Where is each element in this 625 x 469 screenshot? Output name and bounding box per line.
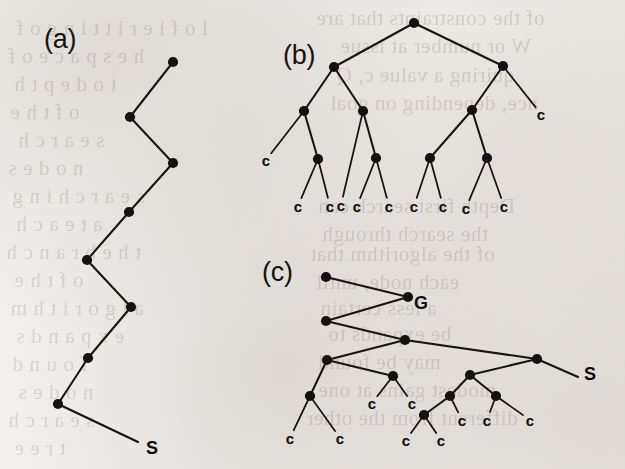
panel-label-c: (c) [262,259,293,286]
tree-edge-c [405,340,537,359]
cutoff-leaf-label: c [526,413,534,428]
graph-node-b-b6 [313,154,323,164]
tree-edge-c [327,360,393,376]
graph-node-a-a7 [53,399,63,409]
leaf-edge-c-0 [294,396,310,430]
leaf-edge-b-8 [430,158,441,198]
figure-container: of the constraints that areW or number a… [0,0,625,469]
graph-node-a-a4 [82,255,92,265]
search-tree-diagram-canvas [0,0,625,469]
graph-node-c-c3 [400,335,410,345]
graph-node-c-c1 [403,292,413,302]
tree-edge-c [310,360,327,396]
cutoff-leaf-label: c [337,198,345,213]
cutoff-leaf-label: c [437,433,445,448]
cutoff-leaf-label: c [410,199,418,214]
tree-edge-a [130,62,173,117]
tree-edge-b [430,110,472,158]
path-tail-edge-a [58,404,138,442]
cutoff-leaf-label: c [262,153,270,168]
goal-node-label-c: G [414,294,428,312]
cutoff-leaf-label: c [353,199,361,214]
start-node-label-a: S [146,439,158,457]
cutoff-leaf-label: c [286,431,294,446]
leaf-edge-c-1 [310,396,335,431]
leaf-edge-b-10 [487,158,501,198]
leaf-edge-b-2 [343,111,363,197]
graph-node-c-c8 [465,370,475,380]
tree-edge-b [334,23,414,67]
leaf-edge-b-3 [301,159,318,198]
graph-node-a-a6 [83,353,93,363]
nodes-layer [53,18,542,420]
tree-edge-a [87,260,131,307]
graph-node-b-b2 [498,61,508,71]
graph-node-a-a3 [124,207,134,217]
tree-edge-b [472,66,503,110]
tree-edge-c [327,340,405,360]
cutoff-leaf-label: c [402,433,410,448]
graph-node-b-b1 [329,62,339,72]
graph-node-a-a1 [125,112,135,122]
graph-node-c-c2 [321,316,331,326]
leaf-edge-b-5 [360,158,376,198]
cutoff-leaf-label: c [385,199,393,214]
edges-layer [58,23,578,442]
cutoff-leaf-label: c [537,107,545,122]
tree-edge-b [414,23,503,66]
graph-node-c-c5 [532,354,542,364]
leaf-edge-b-6 [376,158,387,198]
leaf-edge-b-1 [503,66,536,107]
leaf-edge-b-4 [318,159,328,198]
graph-node-c-c0 [321,272,331,282]
graph-node-b-b0 [409,18,419,28]
panel-label-b: (b) [283,42,315,69]
start-node-label-c: S [584,365,596,383]
graph-node-c-c4 [322,355,332,365]
tree-edge-b [472,110,487,158]
tree-edge-c [326,321,405,340]
leaf-edge-b-0 [271,111,304,153]
graph-node-a-a2 [168,158,178,168]
cutoff-leaf-label: c [326,199,334,214]
tree-edge-b [304,111,318,159]
graph-node-b-b9 [482,153,492,163]
tree-edge-c [470,359,537,375]
tree-edge-a [58,358,88,404]
cutoff-leaf-label: c [458,413,466,428]
graph-node-b-b8 [425,153,435,163]
path-tail-edge-c [537,359,578,377]
graph-node-c-c10 [491,391,501,401]
cutoff-leaf-label: c [336,431,344,446]
cutoff-leaf-label: c [483,413,491,428]
graph-node-c-c7 [388,371,398,381]
graph-node-c-c6 [305,391,315,401]
cutoff-leaf-label: c [462,201,470,216]
cutoff-leaf-label: c [439,199,447,214]
tree-edge-c [326,297,408,321]
tree-edge-b [334,67,363,111]
tree-edge-a [88,307,131,358]
graph-node-b-b3 [299,106,309,116]
cutoff-leaf-label: c [500,199,508,214]
tree-edge-a [87,212,129,260]
panel-label-a: (a) [44,26,76,53]
graph-node-c-c11 [419,410,429,420]
graph-node-c-c9 [445,391,455,401]
tree-edge-b [304,67,334,111]
cutoff-leaf-label: c [294,199,302,214]
leaf-edge-b-9 [469,158,487,200]
graph-node-a-a0 [168,57,178,67]
tree-edge-a [129,163,173,212]
tree-edge-c [326,277,408,297]
cutoff-leaf-label: c [408,396,416,411]
leaf-edge-b-7 [417,158,430,198]
tree-edge-b [363,111,376,158]
graph-node-b-b4 [358,106,368,116]
tree-edge-a [130,117,173,163]
graph-node-b-b5 [467,105,477,115]
cutoff-leaf-label: c [368,396,376,411]
graph-node-a-a5 [126,302,136,312]
graph-node-b-b7 [371,153,381,163]
